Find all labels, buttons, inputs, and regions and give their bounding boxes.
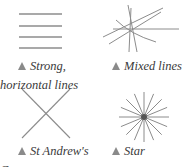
- triangle-icon: [112, 62, 120, 70]
- st-andrews-cross-figure: [22, 89, 70, 138]
- caption-st-andrews-cross: St Andrew's Cross: [18, 142, 89, 167]
- caption-text-line2: Cross: [0, 163, 29, 167]
- caption-text: Strong,: [30, 59, 66, 73]
- caption-text: Mixed lines: [124, 59, 182, 73]
- caption-text: St Andrew's: [30, 144, 89, 158]
- triangle-icon: [18, 62, 26, 70]
- caption-strong-horizontal: Strong, horizontal lines: [18, 57, 78, 95]
- star-center-dot: [141, 114, 147, 120]
- triangle-icon: [18, 147, 26, 155]
- triangle-icon: [112, 147, 120, 155]
- caption-text-line2: horizontal lines: [0, 78, 78, 92]
- caption-mixed-lines: Mixed lines: [112, 57, 182, 76]
- caption-text: Star: [124, 144, 145, 158]
- mixed-lines-figure: [103, 5, 179, 52]
- caption-star: Star: [112, 142, 145, 161]
- horizontal-lines-figure: [19, 14, 62, 48]
